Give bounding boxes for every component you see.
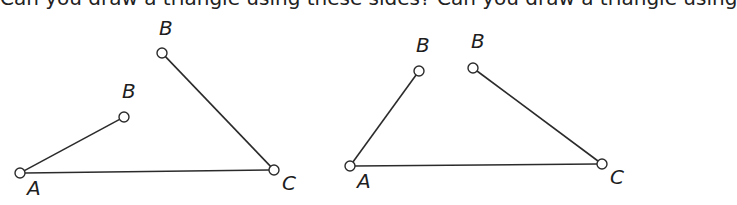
label-B1: B — [159, 16, 173, 40]
point-B1-circle-icon — [414, 66, 424, 76]
point-B2-circle-icon — [119, 112, 129, 122]
segment-CB1 — [165, 57, 270, 167]
segment-AC — [355, 164, 597, 166]
label-B2: B — [471, 29, 485, 53]
label-B2: B — [122, 79, 136, 103]
label-B1: B — [416, 33, 430, 57]
point-A-circle-icon — [345, 161, 355, 171]
point-B2-circle-icon — [468, 63, 478, 73]
left-figure: ACBB — [15, 16, 296, 200]
segment-AC — [25, 170, 269, 173]
point-C-circle-icon — [269, 165, 279, 175]
label-A: A — [25, 176, 41, 200]
segment-AB2 — [24, 119, 119, 170]
point-A-circle-icon — [15, 168, 25, 178]
label-C: C — [610, 165, 624, 189]
point-C-circle-icon — [597, 159, 607, 169]
label-C: C — [282, 171, 296, 195]
segment-AB1 — [353, 75, 416, 162]
point-B1-circle-icon — [157, 48, 167, 58]
segment-CB2 — [477, 71, 598, 161]
label-A: A — [355, 169, 371, 193]
right-figure: ACBB — [345, 29, 624, 193]
